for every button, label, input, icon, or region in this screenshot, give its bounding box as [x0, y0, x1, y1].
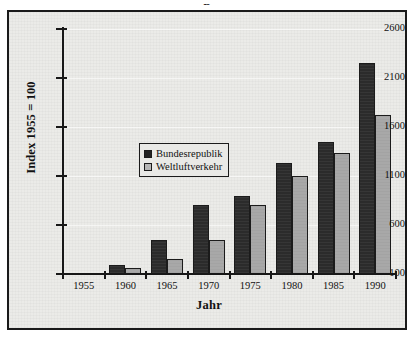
x-axis-tick-label: 1990 — [351, 280, 399, 291]
bar — [276, 163, 292, 274]
legend-label: Bundesrepublik — [156, 148, 223, 159]
y-axis-tick — [56, 126, 67, 128]
chart-legend: Bundesrepublik Weltluftverkehr — [139, 143, 229, 177]
bar — [334, 153, 350, 274]
y-axis-tick-label: 2600 — [361, 22, 405, 33]
bar — [167, 259, 183, 274]
legend-label: Weltluftverkehr — [156, 161, 222, 172]
x-axis-tick — [104, 271, 106, 279]
x-axis-tick — [145, 271, 147, 279]
y-axis-tick — [56, 77, 67, 79]
bar — [234, 196, 250, 274]
legend-item-weltluftverkehr: Weltluftverkehr — [144, 160, 223, 173]
bar — [193, 205, 209, 274]
bar — [250, 205, 266, 274]
x-axis-tick — [270, 271, 272, 279]
chart-figure: p Index 1955 = 100 Jahr 1006001100160021… — [0, 0, 417, 342]
y-axis-tick-label: 1100 — [361, 169, 405, 180]
y-axis-tick — [56, 224, 67, 226]
x-axis-tick — [312, 271, 314, 279]
legend-swatch-icon — [144, 150, 152, 158]
y-axis-tick — [56, 175, 67, 177]
y-axis-tick-label: 2100 — [361, 71, 405, 82]
x-axis-tick — [62, 271, 64, 279]
scan-artifact-glyph: p — [196, 0, 218, 5]
gridline — [63, 127, 396, 128]
bar — [318, 142, 334, 274]
y-axis-tick-label: 1600 — [361, 120, 405, 131]
y-axis-line — [62, 27, 64, 276]
gridline — [63, 78, 396, 79]
plot-area — [63, 29, 396, 274]
gridline — [63, 29, 396, 30]
x-axis-tick — [187, 271, 189, 279]
x-axis-tick — [395, 271, 397, 279]
legend-item-bundesrepublik: Bundesrepublik — [144, 147, 223, 160]
bar — [375, 115, 391, 274]
legend-swatch-icon — [144, 163, 152, 171]
y-axis-title: Index 1955 = 100 — [24, 48, 39, 208]
chart-frame: Index 1955 = 100 Jahr 100600110016002100… — [7, 10, 407, 330]
bar — [151, 240, 167, 274]
x-axis-tick — [353, 271, 355, 279]
x-axis-line — [57, 273, 397, 275]
bar — [209, 240, 225, 274]
y-axis-tick-label: 100 — [361, 267, 405, 278]
bar — [292, 176, 308, 274]
x-axis-tick — [229, 271, 231, 279]
x-axis-title: Jahr — [9, 298, 409, 313]
y-axis-tick — [56, 28, 67, 30]
y-axis-tick-label: 600 — [361, 218, 405, 229]
